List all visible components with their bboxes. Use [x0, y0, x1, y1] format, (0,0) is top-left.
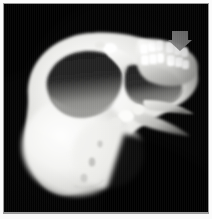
styloid-process: [110, 117, 122, 127]
parietal-foramen: [81, 174, 88, 182]
lower-tooth-3: [157, 53, 164, 63]
down-arrow-icon: [167, 29, 193, 53]
arrow-glyph: [168, 31, 192, 51]
frontal-process-highlight: [103, 43, 117, 53]
upper-tooth-1: [140, 44, 148, 54]
lower-tooth-4: [167, 55, 175, 66]
mastoid-foramen: [89, 157, 95, 166]
lower-tooth-5: [175, 57, 183, 67]
coronoid-process: [132, 105, 144, 115]
arrow-shape: [168, 31, 192, 51]
ct-skull-figure: [0, 0, 212, 219]
surface-foramen: [97, 141, 102, 148]
upper-tooth-2: [148, 42, 156, 52]
supraorbital-notch: [95, 42, 105, 49]
annotation-arrow-marker: [167, 29, 193, 53]
lower-tooth-6: [182, 60, 189, 69]
lower-tooth-1: [141, 55, 149, 65]
upper-tooth-3: [156, 41, 163, 51]
scan-canvas: [4, 4, 208, 212]
lower-tooth-2: [149, 54, 157, 64]
